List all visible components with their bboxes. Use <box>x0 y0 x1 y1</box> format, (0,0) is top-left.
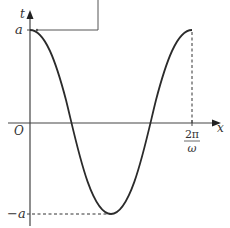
x-axis-label: x <box>217 121 224 135</box>
y-axis-arrow-icon <box>27 10 34 19</box>
tick-label-a: a <box>15 22 23 37</box>
period-denominator: ω <box>188 142 197 155</box>
y-axis-label: t <box>20 7 25 21</box>
tick-label-minus-a: −a <box>7 206 26 221</box>
cosine-diagram: t a −a O x 2π ω <box>0 0 230 228</box>
period-numerator: 2π <box>185 128 199 141</box>
callout-dot <box>36 29 38 31</box>
cosine-curve <box>30 30 192 214</box>
callout-line <box>37 0 98 30</box>
origin-label: O <box>14 124 24 138</box>
